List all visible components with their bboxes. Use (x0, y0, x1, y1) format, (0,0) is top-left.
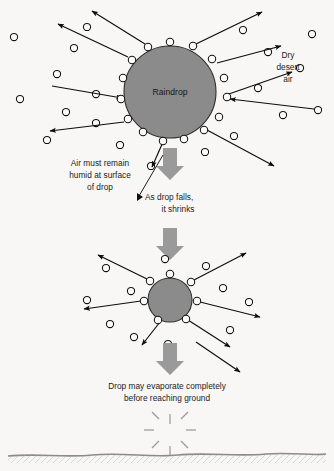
humid-surface-line-2: humid at surface (69, 170, 131, 180)
surface-molecule (128, 56, 135, 63)
evaporate-line-2: before reaching ground (124, 393, 211, 403)
vapor-molecule (53, 70, 60, 77)
drop-falls-line-2: it shrinks (162, 204, 195, 214)
humid-surface-line-1: Air must remain (71, 158, 130, 168)
vapor-molecule (161, 255, 168, 262)
vapor-molecule (83, 296, 90, 303)
diagram-canvas: Raindrop Dry desert (0, 0, 334, 471)
surface-molecule (117, 95, 124, 102)
raindrop-evaporation-figure: Raindrop Dry desert (0, 0, 334, 471)
surface-molecule (144, 43, 151, 50)
vapor-molecule (83, 23, 90, 30)
surface-molecule (124, 115, 131, 122)
surface-molecule (215, 113, 222, 120)
surface-molecule (140, 297, 147, 304)
surface-molecule (193, 297, 200, 304)
surface-molecule (189, 42, 196, 49)
surface-molecule (180, 135, 187, 142)
vapor-molecule (106, 320, 113, 327)
vapor-molecule (245, 298, 252, 305)
surface-molecule (146, 277, 153, 284)
evaporate-line-1: Drop may evaporate completely (108, 381, 227, 391)
vapor-molecule (219, 284, 226, 291)
dry-desert-air-line-2: desert (276, 62, 300, 72)
vapor-molecule (314, 106, 321, 113)
humid-surface-line-3: of drop (87, 182, 113, 192)
dry-desert-air-line-3: air (283, 74, 292, 84)
vapor-molecule (202, 262, 209, 269)
raindrop-label: Raindrop (153, 87, 188, 97)
vapor-molecule (62, 108, 69, 115)
vapor-molecule (130, 333, 137, 340)
surface-molecule (223, 93, 230, 100)
vapor-molecule (230, 132, 237, 139)
surface-molecule (154, 316, 161, 323)
surface-molecule (182, 315, 189, 322)
vapor-molecule (308, 30, 315, 37)
surface-molecule (119, 74, 126, 81)
vapor-molecule (239, 26, 246, 33)
vapor-molecule (102, 264, 109, 271)
surface-molecule (166, 270, 173, 277)
surface-molecule (220, 74, 227, 81)
dry-desert-air-line-1: Dry (282, 50, 296, 60)
vapor-molecule (127, 287, 134, 294)
vapor-molecule (254, 84, 261, 91)
surface-molecule (200, 126, 207, 133)
surface-molecule (166, 38, 173, 45)
vapor-molecule (201, 148, 208, 155)
surface-molecule (187, 278, 194, 285)
surface-molecule (208, 55, 215, 62)
vapor-molecule (43, 136, 50, 143)
drop-falls-line-1: As drop falls, (145, 192, 193, 202)
surface-molecule (159, 137, 166, 144)
surface-molecule (139, 128, 146, 135)
vapor-molecule (70, 44, 77, 51)
vapor-molecule (10, 33, 17, 40)
vapor-molecule (226, 326, 233, 333)
vapor-molecule (16, 95, 23, 102)
vapor-molecule (116, 141, 123, 148)
vapor-molecule (279, 111, 286, 118)
